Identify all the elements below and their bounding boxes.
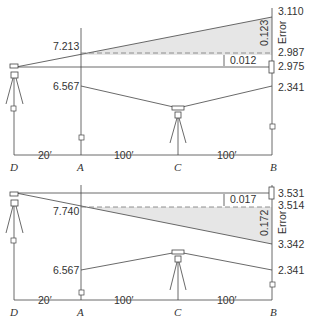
svg-text:100′: 100′ — [114, 294, 134, 306]
level-instrument-d — [6, 192, 23, 300]
svg-text:7.213: 7.213 — [53, 40, 79, 52]
two-peg-test-diagram: 7.213 6.567 3.110 2.987 2.975 2.341 0.01… — [0, 0, 310, 320]
svg-text:Error: Error — [276, 20, 288, 44]
top-diagram: 7.213 6.567 3.110 2.987 2.975 2.341 0.01… — [6, 5, 304, 173]
svg-text:A: A — [76, 306, 84, 318]
svg-text:C: C — [174, 161, 182, 173]
level-instrument-d — [6, 64, 23, 155]
rod-target-icon — [269, 187, 274, 199]
svg-text:3.531: 3.531 — [278, 187, 304, 199]
bottom-diagram: 7.740 6.567 3.531 3.514 3.342 2.341 0.01… — [6, 185, 304, 318]
svg-text:6.567: 6.567 — [53, 264, 79, 276]
svg-text:C: C — [174, 306, 182, 318]
svg-text:100′: 100′ — [217, 149, 237, 161]
svg-text:20′: 20′ — [38, 149, 52, 161]
svg-text:2.975: 2.975 — [278, 60, 304, 72]
svg-text:3.514: 3.514 — [278, 199, 304, 211]
svg-text:D: D — [9, 161, 18, 173]
rod-target-icon — [269, 61, 274, 73]
level-instrument-c — [170, 250, 186, 300]
svg-text:B: B — [270, 306, 277, 318]
svg-text:D: D — [9, 306, 18, 318]
svg-text:0.123: 0.123 — [258, 20, 270, 46]
svg-text:7.740: 7.740 — [53, 205, 79, 217]
svg-text:3.110: 3.110 — [278, 5, 304, 17]
level-instrument-c — [170, 106, 186, 155]
svg-text:0.012: 0.012 — [230, 54, 256, 66]
svg-text:0.172: 0.172 — [258, 210, 270, 236]
svg-text:20′: 20′ — [38, 294, 52, 306]
svg-text:6.567: 6.567 — [53, 80, 79, 92]
svg-text:100′: 100′ — [217, 294, 237, 306]
svg-text:0.017: 0.017 — [230, 193, 256, 205]
svg-text:100′: 100′ — [114, 149, 134, 161]
svg-text:3.342: 3.342 — [278, 238, 304, 250]
svg-text:2.341: 2.341 — [278, 264, 304, 276]
svg-text:2.987: 2.987 — [278, 46, 304, 58]
svg-text:2.341: 2.341 — [278, 81, 304, 93]
svg-text:B: B — [270, 161, 277, 173]
svg-text:Error: Error — [276, 210, 288, 234]
svg-text:A: A — [76, 161, 84, 173]
